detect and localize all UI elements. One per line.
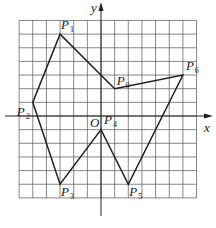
- point-labels: xyOP0P1P2P3P4P5P6: [16, 0, 210, 201]
- x-axis-arrow-icon: [204, 114, 213, 119]
- point-label-p2: P2: [16, 104, 30, 121]
- x-axis-label: x: [203, 120, 210, 135]
- point-label-p3: P3: [60, 184, 74, 201]
- polygon-path: [33, 34, 183, 184]
- y-axis-arrow-icon: [99, 2, 104, 11]
- point-label-p1: P1: [60, 17, 74, 34]
- point-label-p5: P5: [128, 184, 142, 201]
- y-axis-label: y: [89, 0, 97, 15]
- origin-label: O: [90, 115, 100, 130]
- coordinate-diagram: xyOP0P1P2P3P4P5P6: [0, 0, 216, 228]
- grid: [19, 20, 196, 197]
- polyline-path: [33, 34, 183, 184]
